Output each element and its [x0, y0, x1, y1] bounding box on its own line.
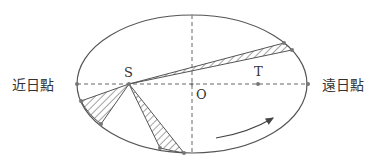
sector-lower-left	[81, 84, 129, 124]
point-b-1	[158, 146, 162, 150]
direction-arrow-icon	[216, 118, 273, 138]
label-center-O: O	[196, 88, 207, 101]
point-center-O	[191, 83, 194, 86]
point-ll-2	[99, 122, 103, 126]
label-focus-T: T	[254, 65, 263, 78]
sector-upper-right	[129, 43, 292, 84]
sector-bottom	[129, 84, 184, 153]
point-ur-2	[290, 48, 294, 52]
label-aphelion: 遠日點	[322, 78, 364, 92]
point-ur-1	[282, 41, 286, 45]
point-focus-T	[256, 82, 260, 86]
point-ll-1	[79, 99, 83, 103]
label-perihelion: 近日點	[12, 78, 54, 92]
point-aphelion	[306, 82, 310, 86]
point-sun-S	[127, 82, 131, 86]
point-b-2	[182, 151, 186, 155]
label-sun-S: S	[124, 66, 133, 79]
point-perihelion	[75, 82, 79, 86]
